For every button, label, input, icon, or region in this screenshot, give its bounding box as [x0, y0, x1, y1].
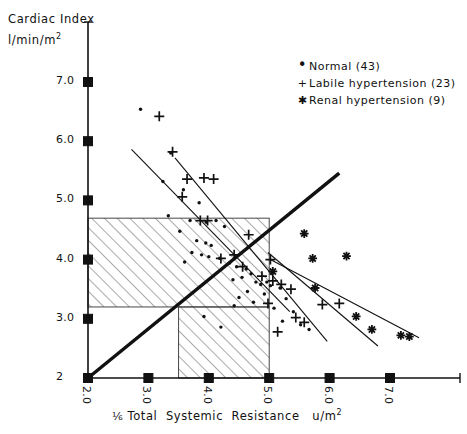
y-tick-label: 4.0	[56, 252, 74, 265]
data-point-dot	[167, 214, 170, 217]
data-point-dot	[272, 306, 275, 309]
data-point-dot	[299, 323, 302, 326]
data-point-dot	[269, 284, 272, 287]
x-tick-label: 5.0	[261, 386, 274, 404]
data-point-asterisk	[300, 229, 309, 238]
data-point-dot	[263, 292, 266, 295]
data-point-asterisk	[405, 332, 414, 341]
data-point-asterisk	[367, 325, 376, 334]
data-point-dot	[284, 297, 287, 300]
data-point-dot	[252, 301, 255, 304]
data-point-dot	[259, 283, 262, 286]
data-point-dot	[254, 280, 257, 283]
data-point-dot	[190, 251, 193, 254]
y-tick-label: 6.0	[56, 133, 74, 146]
data-point-asterisk	[268, 267, 277, 276]
data-point-dot	[188, 219, 191, 222]
data-point-dot	[307, 328, 310, 331]
data-point-dot	[246, 290, 249, 293]
data-point-dot	[245, 267, 248, 270]
data-point-asterisk	[342, 252, 351, 261]
data-point-dot	[214, 219, 217, 222]
data-point-plus	[291, 313, 301, 323]
x-tick-label: 3.0	[140, 386, 153, 404]
data-point-dot	[228, 261, 231, 264]
data-point-dot	[161, 180, 164, 183]
y-tick-label: 3.0	[56, 311, 74, 324]
x-tick-label: 2.0	[80, 386, 93, 404]
lower-normal-range-box	[179, 307, 270, 378]
data-point-dot	[232, 304, 235, 307]
data-point-plus	[154, 111, 164, 121]
plot-canvas	[0, 0, 467, 434]
data-point-asterisk	[396, 331, 405, 340]
data-point-dot	[281, 319, 284, 322]
data-point-dot	[219, 325, 222, 328]
data-point-plus	[199, 173, 209, 183]
data-point-dot	[182, 188, 185, 191]
data-point-dot	[200, 253, 203, 256]
data-point-dot	[207, 255, 210, 258]
data-point-dot	[197, 201, 200, 204]
data-point-asterisk	[352, 312, 361, 321]
axes	[84, 22, 461, 383]
x-tick-label: 4.0	[201, 386, 214, 404]
x-tick-label: 6.0	[322, 386, 335, 404]
renal-regression	[270, 260, 419, 338]
data-point-plus	[334, 298, 344, 308]
data-point-dot	[178, 229, 181, 232]
y-tick-label: 5.0	[56, 192, 74, 205]
data-point-plus	[182, 174, 192, 184]
data-point-asterisk	[311, 284, 320, 293]
y-tick-label: 7.0	[56, 74, 74, 87]
data-point-dot	[183, 260, 186, 263]
data-point-dot	[139, 108, 142, 111]
data-point-dot	[240, 276, 243, 279]
data-point-dot	[202, 315, 205, 318]
data-point-plus	[168, 147, 178, 157]
data-point-dot	[195, 239, 198, 242]
data-point-dot	[210, 244, 213, 247]
data-point-plus	[209, 174, 219, 184]
data-point-dot	[237, 296, 240, 299]
data-point-plus	[177, 192, 187, 202]
data-point-dot	[223, 225, 226, 228]
data-point-plus	[273, 327, 283, 337]
data-point-asterisk	[308, 254, 317, 263]
y-tick-label: 2	[56, 370, 63, 383]
scatter-plot-figure: Cardiac Index l/min/m2 ⅙ Total Systemic …	[0, 0, 467, 434]
x-tick-label: 7.0	[382, 386, 395, 404]
data-point-dot	[292, 310, 295, 313]
data-point-dot	[204, 241, 207, 244]
data-point-dot	[231, 278, 234, 281]
data-point-dot	[249, 272, 252, 275]
